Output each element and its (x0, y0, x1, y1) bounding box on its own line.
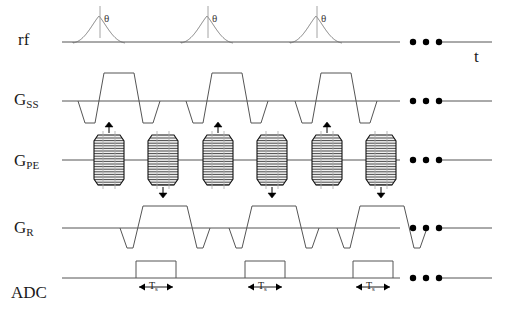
row-label-main: G (14, 90, 26, 109)
ellipsis-dot (410, 275, 416, 281)
ellipsis-dot (423, 157, 429, 163)
row-label-G_SS: GSS (14, 91, 39, 110)
ellipsis-dot (436, 39, 442, 45)
adc-measure-arrow-right (384, 284, 390, 291)
rf-flip-angle-label: θ (104, 12, 109, 24)
pe-blip-body (148, 135, 178, 185)
ellipsis-dot (423, 98, 429, 104)
pe-blip-up (312, 122, 342, 189)
pe-blip-arrowhead-up (323, 122, 331, 127)
rf-flip-angle-label: θ (212, 12, 217, 24)
ellipsis-dot (423, 225, 429, 231)
row-label-G_PE: GPE (14, 152, 40, 171)
adc-box (353, 261, 393, 278)
adc-sampling-time-label: Ts (149, 280, 158, 293)
ellipsis-dot (410, 225, 416, 231)
sequence-canvas (0, 0, 514, 315)
pe-blip-arrowhead-down (377, 193, 385, 198)
pe-blip-body (257, 135, 287, 185)
time-axis-label: t (474, 47, 479, 67)
ellipsis-dot (410, 157, 416, 163)
row-label-main: G (14, 151, 26, 170)
gr-lobe (229, 206, 319, 248)
pe-blip-up (203, 122, 233, 189)
row-label-main: G (14, 218, 26, 237)
pe-blip-body (312, 135, 342, 185)
pe-blip-up (94, 122, 124, 189)
adc-measure-arrow-right (276, 284, 282, 291)
row-label-G_R: GR (14, 219, 34, 238)
row-label-subscript: R (26, 226, 34, 238)
pe-blip-arrowhead-up (105, 122, 113, 127)
pe-blip-down (148, 131, 178, 198)
pe-blip-body (94, 135, 124, 185)
ellipsis-dot (410, 98, 416, 104)
ellipsis-dot (436, 157, 442, 163)
pulse-sequence-figure: TsTsTsrfGSSGPEGRADCθθθt (0, 0, 514, 315)
rf-pulse (73, 16, 125, 43)
row-rf (62, 6, 492, 43)
adc-measure-arrow-left (356, 284, 362, 291)
ellipsis-G_SS (410, 98, 442, 104)
ellipsis-rf (410, 39, 442, 45)
ellipsis-G_R (410, 225, 442, 231)
adc-ts-sub: s (372, 285, 375, 293)
rf-pulse (290, 16, 342, 43)
adc-sampling-time-label: Ts (258, 280, 267, 293)
pe-blip-arrowhead-up (214, 122, 222, 127)
pe-blip-arrowhead-down (159, 193, 167, 198)
row-label-subscript: PE (26, 159, 39, 171)
ellipsis-ADC (410, 275, 442, 281)
adc-measure-arrow-left (248, 284, 254, 291)
gr-lobe (120, 206, 210, 248)
adc-box (136, 261, 176, 278)
pe-blip-body (366, 135, 396, 185)
pe-blip-down (257, 131, 287, 198)
adc-box (245, 261, 285, 278)
pe-blip-body (203, 135, 233, 185)
ellipsis-dot (423, 275, 429, 281)
row-label-rf: rf (18, 31, 29, 48)
row-label-main: ADC (11, 283, 47, 302)
rf-pulse (181, 16, 233, 43)
row-G_SS (62, 73, 492, 123)
adc-ts-sub: s (155, 285, 158, 293)
adc-measure-arrow-right (167, 284, 173, 291)
adc-measure-arrow-left (139, 284, 145, 291)
gss-lobe (78, 73, 160, 123)
ellipsis-dot (410, 39, 416, 45)
gss-lobe (186, 73, 268, 123)
ellipsis-dot (436, 225, 442, 231)
gss-lobe (295, 73, 377, 123)
row-label-main: rf (18, 30, 29, 49)
rf-flip-angle-label: θ (321, 12, 326, 24)
row-label-subscript: SS (26, 98, 39, 110)
adc-ts-sub: s (264, 285, 267, 293)
ellipsis-dot (436, 98, 442, 104)
adc-sampling-time-label: Ts (366, 280, 375, 293)
ellipsis-G_PE (410, 157, 442, 163)
ellipsis-dot (436, 275, 442, 281)
row-label-ADC: ADC (11, 284, 47, 301)
pe-blip-arrowhead-down (268, 193, 276, 198)
pe-blip-down (366, 131, 396, 198)
ellipsis-dot (423, 39, 429, 45)
